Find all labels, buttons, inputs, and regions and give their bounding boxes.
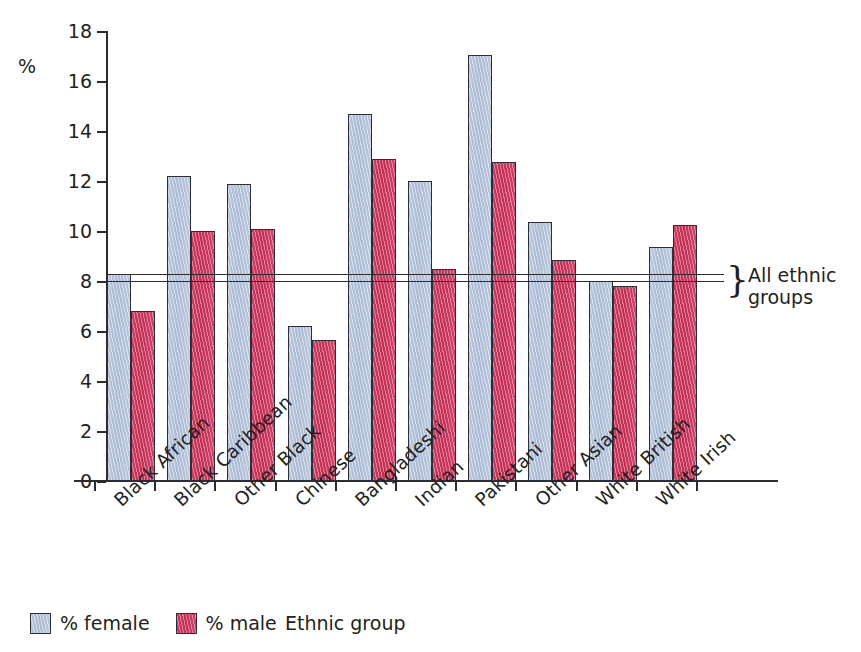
reference-line bbox=[106, 281, 706, 282]
y-tick-label: 2 bbox=[80, 422, 92, 441]
bar-male bbox=[372, 159, 396, 482]
reference-line bbox=[106, 274, 706, 275]
y-tick-mark bbox=[97, 331, 106, 333]
legend-swatch bbox=[176, 613, 197, 634]
bar-female bbox=[348, 114, 372, 482]
y-tick-mark bbox=[97, 131, 106, 133]
legend: % female% male bbox=[30, 612, 303, 634]
legend-item: % female bbox=[30, 612, 150, 634]
bar-female bbox=[468, 55, 492, 481]
reference-annotation-line1: All ethnic bbox=[748, 265, 837, 286]
y-axis-unit-label: % bbox=[18, 55, 36, 77]
x-axis-title: Ethnic group bbox=[285, 612, 406, 634]
reference-line-extension bbox=[706, 274, 724, 275]
y-tick-label: 16 bbox=[68, 72, 92, 91]
bar-male bbox=[432, 269, 456, 482]
legend-label: % male bbox=[206, 612, 277, 634]
legend-item: % male bbox=[176, 612, 277, 634]
x-tick-mark bbox=[94, 480, 96, 491]
legend-label: % female bbox=[60, 612, 150, 634]
brace-icon: } bbox=[726, 262, 749, 298]
y-tick-label: 10 bbox=[68, 222, 92, 241]
y-tick-mark bbox=[97, 231, 106, 233]
reference-line-extension bbox=[706, 281, 724, 282]
y-tick-mark bbox=[97, 81, 106, 83]
bar-male bbox=[613, 286, 637, 481]
y-tick-label: 8 bbox=[80, 272, 92, 291]
reference-annotation-line2: groups bbox=[748, 287, 813, 308]
bar-chart: % 181614121086420 } All ethnic groups Bl… bbox=[0, 0, 861, 652]
y-tick-mark bbox=[97, 31, 106, 33]
y-tick-mark bbox=[97, 381, 106, 383]
y-axis-group: % 181614121086420 bbox=[0, 31, 106, 482]
y-tick-mark bbox=[97, 281, 106, 283]
y-tick-mark bbox=[97, 181, 106, 183]
bar-male bbox=[492, 162, 516, 481]
y-tick-label: 18 bbox=[68, 22, 92, 41]
y-tick-label: 14 bbox=[68, 122, 92, 141]
y-tick-label: 12 bbox=[68, 172, 92, 191]
y-tick-label: 4 bbox=[80, 372, 92, 391]
y-tick-label: 6 bbox=[80, 322, 92, 341]
y-tick-mark bbox=[97, 431, 106, 433]
bar-female bbox=[107, 274, 131, 482]
bar-male bbox=[552, 260, 576, 481]
legend-swatch bbox=[30, 613, 51, 634]
